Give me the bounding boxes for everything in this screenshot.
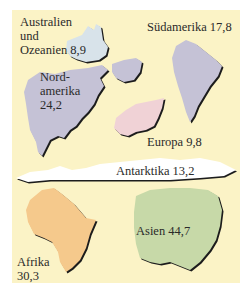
- north-america-label-line: 24,2: [40, 98, 80, 112]
- africa-label-line: 30,3: [17, 269, 50, 283]
- australia-label: Australien und Ozeanien 8,9: [20, 15, 86, 57]
- europe-label-line: Europa 9,8: [147, 135, 202, 149]
- north-america-label-line: Nord-: [40, 70, 80, 84]
- antarctica-label: Antarktika 13,2: [116, 164, 194, 178]
- australia-label-line: Ozeanien 8,9: [20, 43, 86, 57]
- australia-label-line: und: [20, 29, 86, 43]
- south-america-shape: [172, 40, 224, 124]
- south-america-label: Südamerika 17,8: [147, 20, 232, 34]
- asia-label: Asien 44,7: [136, 224, 190, 238]
- greenland-shape: [112, 58, 144, 84]
- south-america-label-line: Südamerika 17,8: [147, 20, 232, 34]
- europe-label: Europa 9,8: [147, 135, 202, 149]
- europe-shape: [114, 98, 166, 138]
- africa-label: Afrika 30,3: [17, 255, 50, 283]
- antarctica-label-line: Antarktika 13,2: [116, 164, 194, 178]
- north-america-label-line: amerika: [40, 84, 80, 98]
- north-america-label: Nord- amerika 24,2: [40, 70, 80, 112]
- europe-fill: [114, 98, 164, 136]
- africa-label-line: Afrika: [17, 255, 50, 269]
- asia-label-line: Asien 44,7: [136, 224, 190, 238]
- australia-label-line: Australien: [20, 15, 86, 29]
